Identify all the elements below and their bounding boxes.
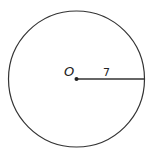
center-label: O: [64, 64, 74, 79]
center-point: [75, 77, 79, 81]
radius-label: 7: [103, 66, 110, 79]
circle-diagram: O 7: [0, 0, 154, 157]
